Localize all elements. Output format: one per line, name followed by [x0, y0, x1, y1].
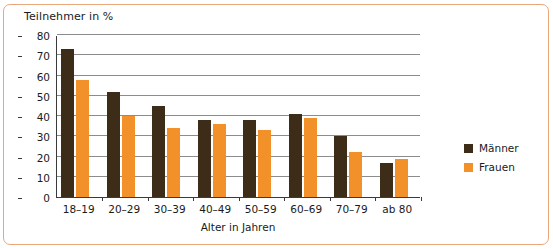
y-axis-tick-label: 30 — [24, 132, 50, 143]
x-axis-tick-mark — [284, 197, 285, 201]
bar-maenner — [380, 163, 393, 197]
y-axis-tick-mark — [18, 77, 22, 78]
legend-swatch-maenner — [464, 144, 473, 153]
bar-frauen — [395, 159, 408, 197]
x-axis-tick-mark — [102, 197, 103, 201]
bar-frauen — [258, 130, 271, 197]
bar-maenner — [289, 114, 302, 197]
x-axis-tick-mark — [375, 197, 376, 201]
bar-group — [194, 36, 240, 197]
bar-series-container — [57, 36, 420, 197]
x-axis-tick-label: 20–29 — [108, 203, 140, 215]
y-axis-tick-label: 60 — [24, 71, 50, 82]
legend-label: Männer — [479, 142, 519, 154]
bar-maenner — [152, 106, 165, 197]
x-axis-tick-label: 70–79 — [336, 203, 368, 215]
bar-group — [148, 36, 194, 197]
bar-group — [57, 36, 103, 197]
legend-label: Frauen — [479, 161, 515, 173]
y-axis-tick-label: 10 — [24, 173, 50, 184]
x-axis-tick-mark — [148, 197, 149, 201]
legend-swatch-frauen — [464, 163, 473, 172]
x-axis-tick-label: ab 80 — [382, 203, 412, 215]
chart-figure: Teilnehmer in % 01020304050607080 18–192… — [0, 0, 553, 249]
y-axis-tick-label: 0 — [24, 193, 50, 204]
bar-group — [285, 36, 331, 197]
bar-group — [376, 36, 422, 197]
bar-maenner — [198, 120, 211, 197]
x-axis-tick-label: 50–59 — [245, 203, 277, 215]
bar-frauen — [122, 116, 135, 197]
bar-frauen — [167, 128, 180, 197]
bar-frauen — [76, 80, 89, 197]
y-axis-tick-labels: 01020304050607080 — [22, 36, 50, 198]
bar-group — [103, 36, 149, 197]
y-axis-tick-mark — [18, 137, 22, 138]
gridline — [57, 34, 420, 35]
y-axis-tick-mark — [18, 158, 22, 159]
legend-item: Männer — [464, 142, 519, 154]
y-axis-tick-label: 20 — [24, 152, 50, 163]
x-axis-tick-label: 40–49 — [199, 203, 231, 215]
y-axis-tick-label: 70 — [24, 51, 50, 62]
chart-title: Teilnehmer in % — [24, 10, 113, 23]
y-axis-tick-mark — [18, 198, 22, 199]
y-axis-tick-mark — [18, 36, 22, 37]
bar-frauen — [304, 118, 317, 197]
bar-maenner — [243, 120, 256, 197]
x-axis-label: Alter in Jahren — [56, 221, 420, 233]
x-axis-tick-mark — [330, 197, 331, 201]
legend-item: Frauen — [464, 161, 519, 173]
y-axis-tick-mark — [18, 117, 22, 118]
y-axis-tick-label: 50 — [24, 92, 50, 103]
bar-maenner — [61, 49, 74, 197]
y-axis-tick-mark — [18, 178, 22, 179]
plot-area — [56, 36, 420, 198]
x-axis-tick-mark — [193, 197, 194, 201]
y-axis-tick-mark — [18, 56, 22, 57]
x-axis-tick-label: 30–39 — [154, 203, 186, 215]
y-axis-tick-label: 80 — [24, 31, 50, 42]
bar-group — [239, 36, 285, 197]
x-axis-tick-mark — [421, 197, 422, 201]
x-axis-tick-mark — [239, 197, 240, 201]
chart-legend: MännerFrauen — [464, 142, 519, 180]
bar-maenner — [334, 136, 347, 197]
bar-frauen — [349, 152, 362, 197]
x-axis-tick-label: 18–19 — [63, 203, 95, 215]
bar-maenner — [107, 92, 120, 197]
bar-group — [330, 36, 376, 197]
bar-frauen — [213, 124, 226, 197]
x-axis-tick-label: 60–69 — [290, 203, 322, 215]
y-axis-tick-label: 40 — [24, 112, 50, 123]
y-axis-tick-mark — [18, 97, 22, 98]
